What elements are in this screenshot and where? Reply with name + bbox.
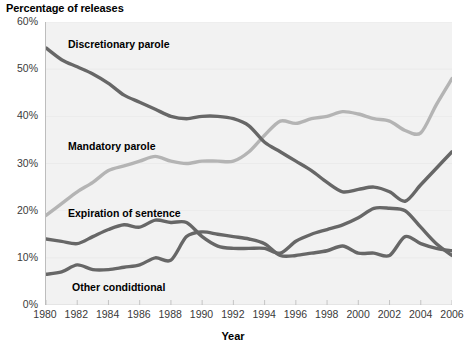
series-label-discretionary: Discretionary parole [68, 38, 170, 50]
plot-area [45, 22, 452, 305]
series-canvas [46, 22, 452, 305]
y-axis-tick: 60% [2, 15, 38, 27]
y-axis-tick: 40% [2, 109, 38, 121]
chart-root: Percentage of releases 60%50%40%30%20%10… [0, 0, 466, 354]
chart-title: Percentage of releases [6, 2, 124, 14]
y-axis-tick: 10% [2, 251, 38, 263]
x-axis-tick: 2006 [432, 308, 466, 320]
series-line-other-condidtional [46, 232, 452, 274]
series-line-discretionary-parole [46, 48, 452, 201]
series-label-mandatory: Mandatory parole [68, 140, 156, 152]
series-label-other: Other condidtional [72, 281, 165, 293]
y-axis-tick: 30% [2, 157, 38, 169]
y-axis-tick: 50% [2, 62, 38, 74]
x-axis-title: Year [0, 330, 466, 342]
series-label-expiration: Expiration of sentence [68, 207, 181, 219]
y-axis-tick: 20% [2, 204, 38, 216]
